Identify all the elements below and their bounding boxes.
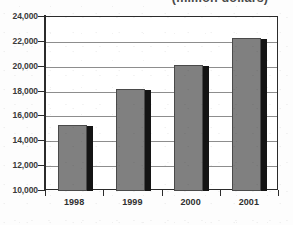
y-axis-tick <box>38 190 45 191</box>
plot-area <box>45 16 278 190</box>
y-axis-tick <box>38 16 45 17</box>
y-axis-tick-label: 22,000 <box>0 36 38 46</box>
x-axis-label-1998: 1998 <box>49 197 99 207</box>
y-axis-tick <box>38 91 45 92</box>
bar-1999 <box>116 89 145 191</box>
y-axis-tick <box>38 66 45 67</box>
chart-title: (million dollars) <box>150 0 290 5</box>
y-axis-tick-label: 20,000 <box>0 61 38 71</box>
x-axis-tick <box>220 190 221 196</box>
y-axis-tick-label: 24,000 <box>0 11 38 21</box>
x-axis-tick <box>45 190 46 196</box>
y-axis-tick <box>38 115 45 116</box>
y-axis-tick-label: 14,000 <box>0 135 38 145</box>
bar-shadow <box>87 126 93 191</box>
x-axis-tick <box>278 190 279 196</box>
y-axis-tick-label: 18,000 <box>0 86 38 96</box>
x-axis-label-2001: 2001 <box>224 197 274 207</box>
y-axis-tick <box>38 41 45 42</box>
y-axis-tick-label: 16,000 <box>0 110 38 120</box>
y-axis-labels: 10,00012,00014,00016,00018,00020,00022,0… <box>0 0 38 225</box>
bar-chart-figure: (million dollars) 10,00012,00014,00016,0… <box>0 0 293 225</box>
bar-1998 <box>58 125 87 191</box>
y-axis-tick-label: 10,000 <box>0 185 38 195</box>
x-axis-tick <box>103 190 104 196</box>
bar-2000 <box>174 65 203 191</box>
x-axis-label-1999: 1999 <box>107 197 157 207</box>
y-axis-tick-label: 12,000 <box>0 160 38 170</box>
bar-shadow <box>145 90 151 191</box>
x-axis-label-2000: 2000 <box>166 197 216 207</box>
y-axis-tick <box>38 140 45 141</box>
y-axis-tick <box>38 165 45 166</box>
bar-shadow <box>203 66 209 191</box>
bar-shadow <box>261 39 267 191</box>
x-axis-tick <box>162 190 163 196</box>
bar-2001 <box>232 38 261 191</box>
